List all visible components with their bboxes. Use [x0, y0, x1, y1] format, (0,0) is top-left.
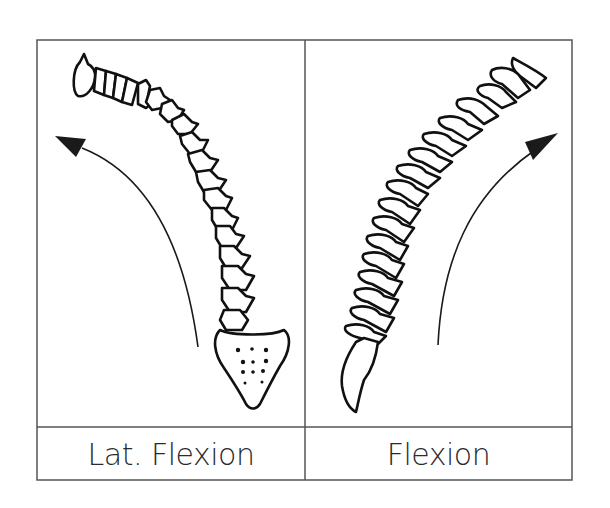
- flexion-spine-illustration: [342, 58, 546, 412]
- left-curved-arrow-icon: [55, 136, 198, 347]
- caption-flexion: Flexion: [305, 428, 572, 480]
- caption-lat-flexion: Lat. Flexion: [37, 428, 305, 480]
- diagram-frame: [37, 40, 572, 480]
- lateral-spine-illustration: [74, 54, 289, 409]
- right-curved-arrow-icon: [438, 133, 558, 345]
